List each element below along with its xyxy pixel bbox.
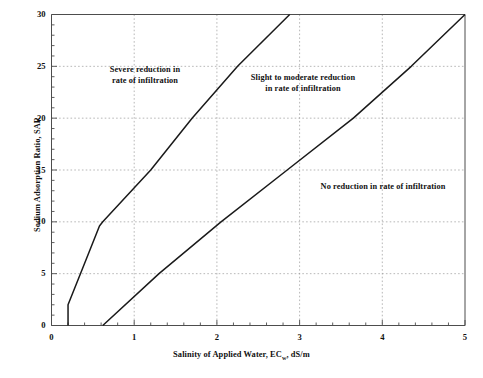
y-tick-label-5: 25 bbox=[24, 61, 46, 71]
y-axis-title: Sodium Adsorption Ratio, SAR bbox=[33, 60, 42, 290]
annotation-no-reduction: No reduction in rate of infiltration bbox=[288, 181, 478, 192]
x-axis-title: Salinity of Applied Water, ECw, dS/m bbox=[0, 350, 483, 361]
annotation-slight-moderate-reduction: Slight to moderate reduction in rate of … bbox=[228, 72, 378, 94]
y-tick-label-1: 5 bbox=[24, 268, 46, 278]
infiltration-reduction-chart: Severe reduction in rate of infiltration… bbox=[0, 0, 483, 378]
y-tick-label-4: 20 bbox=[24, 113, 46, 123]
y-tick-label-6: 30 bbox=[24, 9, 46, 19]
y-tick-label-0: 0 bbox=[24, 320, 46, 330]
annotation-severe-reduction: Severe reduction in rate of infiltration bbox=[86, 64, 204, 86]
x-axis-title-main: Salinity of Applied Water, EC bbox=[173, 350, 282, 359]
x-tick-label-4: 4 bbox=[372, 332, 392, 342]
x-axis-title-units: , dS/m bbox=[286, 350, 309, 359]
y-tick-label-3: 15 bbox=[24, 165, 46, 175]
x-tick-label-5: 5 bbox=[455, 332, 475, 342]
gridlines-group bbox=[52, 15, 466, 326]
x-tick-label-3: 3 bbox=[290, 332, 310, 342]
y-tick-label-2: 10 bbox=[24, 216, 46, 226]
x-tick-label-0: 0 bbox=[42, 332, 62, 342]
x-tick-label-1: 1 bbox=[124, 332, 144, 342]
x-tick-label-2: 2 bbox=[207, 332, 227, 342]
